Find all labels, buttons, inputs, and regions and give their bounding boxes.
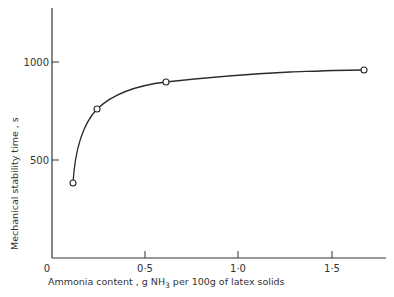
x-tick-1.0: 1·0: [230, 251, 246, 274]
x-axis-label: Ammonia content , g NH3 per 100g of late…: [48, 276, 285, 290]
svg-text:1·0: 1·0: [230, 263, 246, 274]
data-point-1: [70, 180, 76, 186]
x-tick-1.5: 1·5: [324, 251, 340, 274]
svg-text:0·5: 0·5: [137, 263, 153, 274]
y-axis-label: Mechanical stability time , s: [9, 117, 20, 250]
x-tick-0: 0: [44, 263, 50, 274]
svg-text:1000: 1000: [24, 57, 49, 68]
y-tick-1000: 1000: [24, 57, 59, 68]
x-tick-0.5: 0·5: [137, 251, 153, 274]
svg-text:0: 0: [44, 263, 50, 274]
data-point-4: [361, 67, 367, 73]
svg-text:500: 500: [30, 155, 49, 166]
chart: 1000 500 0 0·5 1·0 1·5 Ammonia content ,…: [0, 0, 394, 297]
data-point-3: [163, 79, 169, 85]
svg-text:1·5: 1·5: [324, 263, 340, 274]
data-point-2: [94, 106, 100, 112]
y-tick-500: 500: [30, 155, 59, 166]
data-curve: [73, 70, 364, 183]
